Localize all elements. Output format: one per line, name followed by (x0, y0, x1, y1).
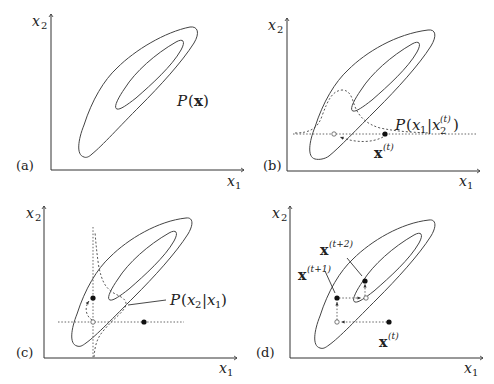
y-axis-sub: 2 (41, 20, 47, 31)
annotation-pointer (128, 300, 166, 305)
point-label-xt1: x (t+1) (298, 264, 331, 283)
x-axis-sub: 1 (227, 367, 233, 378)
inner-contour (116, 40, 184, 109)
paren-close: ) (453, 116, 459, 134)
label-p: P (169, 291, 181, 309)
annotation-conditional-x2: P ( x 2 | x 1 ) (169, 291, 227, 310)
panel-label: (a) (16, 158, 34, 173)
point-label-xt: x (t) (379, 331, 399, 350)
intermediate-state-dot (91, 320, 95, 324)
point-label-xt2: x (t+2) (320, 239, 353, 258)
panel-label: (c) (16, 345, 33, 360)
paren-open: ( (188, 92, 194, 110)
paren-close: ) (203, 92, 209, 110)
sample-arrow (86, 301, 92, 320)
panel-c: P ( x 2 | x 1 ) (c) x 2 x 1 (16, 205, 237, 378)
annotation-px: P ( x ) (176, 92, 209, 110)
x-axis-label: x (459, 173, 467, 189)
label-p: P (176, 92, 188, 110)
label-x2-sup: (t) (440, 114, 451, 124)
gibbs-sampling-figure: P ( x ) (a) x 2 x 1 P ( x 1 | x 2 (t) ) (0, 0, 494, 384)
paren-open: ( (406, 116, 412, 134)
panel-label: (b) (263, 158, 281, 173)
label-sup: (t) (383, 142, 394, 152)
panel-d: x (t) x (t+1) x (t+2) (d) x 2 x 1 (256, 205, 483, 378)
label-x1-sub: 1 (420, 124, 426, 135)
label-sup: (t+2) (329, 239, 353, 249)
paren-open: ( (181, 291, 187, 309)
inner-contour (109, 231, 177, 300)
pointer-xt1 (325, 271, 335, 293)
annotation-conditional-x1: P ( x 1 | x 2 (t) ) (394, 114, 459, 136)
label-x2-sub: 2 (195, 299, 201, 310)
x-axis-sub: 1 (472, 367, 478, 378)
outer-contour (72, 218, 192, 346)
y-axis-label: x (32, 13, 40, 29)
y-axis-label: x (26, 205, 34, 221)
point-label-xt: x (t) (374, 142, 394, 161)
x-axis-label: x (464, 360, 472, 376)
intermediate-dot-2 (364, 296, 368, 300)
y-axis-label: x (272, 205, 280, 221)
x-axis-sub: 1 (467, 180, 473, 191)
y-axis-label: x (268, 17, 276, 33)
panel-a: P ( x ) (a) x 2 x 1 (16, 13, 244, 191)
x-axis-label: x (219, 360, 227, 376)
inner-contour (354, 233, 422, 302)
sampled-state-dot (90, 295, 95, 300)
panel-b: P ( x 1 | x 2 (t) ) x (t) (b) x 2 x 1 (263, 17, 480, 191)
outer-contour (310, 30, 435, 159)
x-axis-label: x (227, 173, 235, 189)
paren-close: ) (221, 291, 227, 309)
label-x-bold: x (298, 267, 307, 283)
state-xt1-dot (334, 295, 339, 300)
label-sup: (t+1) (307, 264, 331, 274)
label-x-bold: x (379, 334, 388, 350)
intermediate-dot-1 (335, 320, 339, 324)
proposed-state-dot (332, 132, 336, 136)
pointer-xt2 (347, 258, 362, 276)
current-state-dot (141, 319, 146, 324)
x-axis-sub: 1 (235, 180, 241, 191)
state-xt2-dot (362, 278, 367, 283)
label-x-bold: x (320, 242, 329, 258)
y-axis-sub: 2 (277, 24, 283, 35)
label-sup: (t) (388, 331, 399, 341)
label-x2-sub: 2 (440, 125, 446, 136)
label-x-bold: x (374, 145, 383, 161)
sample-arrow (340, 137, 383, 142)
y-axis-sub: 2 (35, 212, 41, 223)
y-axis-sub: 2 (281, 212, 287, 223)
current-state-dot (382, 131, 387, 136)
panel-label: (d) (256, 345, 274, 360)
label-p: P (394, 116, 406, 134)
state-xt-dot (386, 319, 391, 324)
